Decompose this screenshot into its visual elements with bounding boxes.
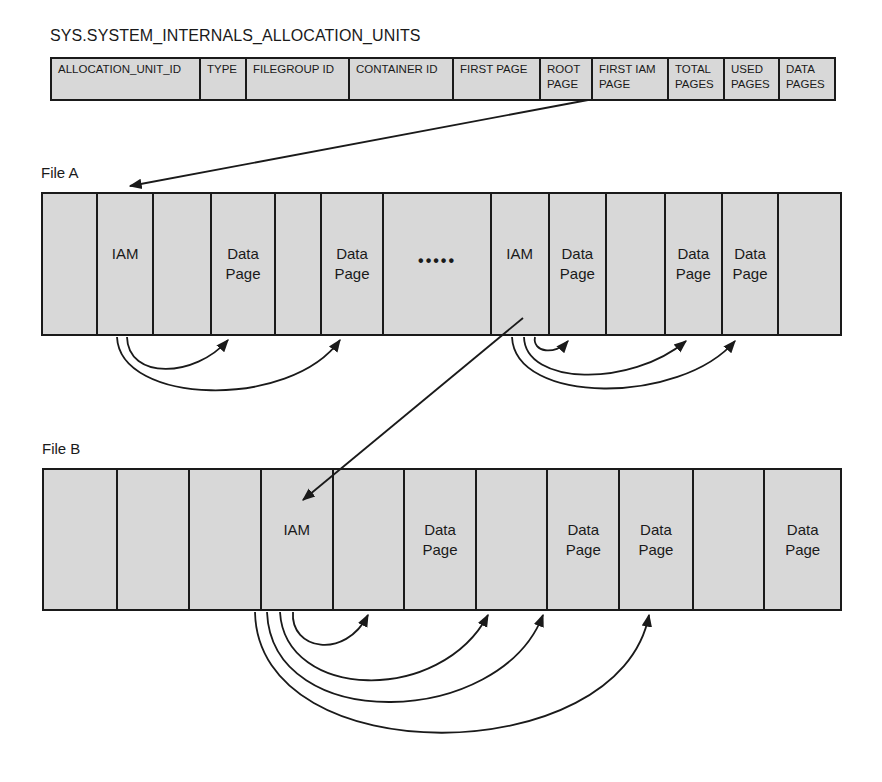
data-page-label: Data Page <box>666 244 721 284</box>
data-page-label: Data Page <box>212 244 274 284</box>
column-first-iam-page: FIRST IAM PAGE <box>593 59 669 99</box>
column-total-pages: TOTAL PAGES <box>669 59 725 99</box>
arrows-layer <box>0 0 882 782</box>
file-b-iam-arrow-3 <box>267 612 543 702</box>
file-a-data-page: Data Page <box>723 194 780 334</box>
file-a-iam2-arrow-3 <box>512 337 735 389</box>
iam-label: IAM <box>262 520 332 540</box>
column-data-pages: DATA PAGES <box>780 59 834 99</box>
file-b-iam-arrow-4 <box>255 612 649 733</box>
allocation-units-table: ALLOCATION_UNIT_ID TYPE FILEGROUP ID CON… <box>50 57 836 101</box>
data-page-label: Data Page <box>322 244 383 284</box>
file-b-page <box>44 470 118 609</box>
data-page-label: Data Page <box>550 244 606 284</box>
file-a-data-page: Data Page <box>322 194 385 334</box>
table-title: SYS.SYSTEM_INTERNALS_ALLOCATION_UNITS <box>50 27 421 45</box>
file-a-ellipsis-page: ••••• <box>384 194 491 334</box>
file-a-data-page: Data Page <box>212 194 276 334</box>
file-b-page <box>334 470 406 609</box>
file-b-iam-arrow-2 <box>280 612 488 680</box>
file-a-data-page: Data Page <box>550 194 608 334</box>
file-a-page <box>276 194 322 334</box>
file-b-data-page: Data Page <box>405 470 477 609</box>
file-b-iam-page: IAM <box>262 470 334 609</box>
file-a-iam1-arrow-1 <box>127 337 228 369</box>
file-a-iam-page: IAM <box>98 194 155 334</box>
file-a-iam2-arrow-2 <box>524 337 686 375</box>
file-a-iam2-arrow-1 <box>535 337 568 350</box>
file-b-data-page: Data Page <box>548 470 620 609</box>
data-page-label: Data Page <box>620 520 692 560</box>
column-used-pages: USED PAGES <box>725 59 780 99</box>
file-a-strip: IAM Data Page Data Page ••••• IAM Data P… <box>41 192 842 336</box>
file-b-data-page: Data Page <box>765 470 840 609</box>
column-filegroup-id: FILEGROUP ID <box>247 59 350 99</box>
file-a-data-page: Data Page <box>666 194 723 334</box>
file-b-page <box>190 470 262 609</box>
file-a-page <box>154 194 212 334</box>
iam-label: IAM <box>98 244 153 264</box>
file-b-label: File B <box>42 440 80 457</box>
file-a-label: File A <box>41 164 79 181</box>
first-iam-pointer-arrow <box>130 100 588 186</box>
file-a-iam1-arrow-2 <box>117 337 340 390</box>
column-root-page: ROOT PAGE <box>541 59 593 99</box>
file-b-data-page: Data Page <box>620 470 694 609</box>
file-b-iam-arrow-1 <box>293 612 368 645</box>
ellipsis-icon: ••••• <box>384 252 489 270</box>
column-type: TYPE <box>201 59 247 99</box>
file-a-page <box>779 194 840 334</box>
file-a-page <box>43 194 98 334</box>
data-page-label: Data Page <box>723 244 778 284</box>
file-a-iam-page: IAM <box>492 194 550 334</box>
file-b-page <box>477 470 549 609</box>
column-container-id: CONTAINER ID <box>350 59 454 99</box>
data-page-label: Data Page <box>405 520 475 560</box>
column-allocation-unit-id: ALLOCATION_UNIT_ID <box>52 59 201 99</box>
column-first-page: FIRST PAGE <box>454 59 541 99</box>
file-a-page <box>607 194 666 334</box>
file-b-strip: IAM Data Page Data Page Data Page Data P… <box>42 468 842 611</box>
file-b-page <box>694 470 766 609</box>
data-page-label: Data Page <box>548 520 618 560</box>
iam-label: IAM <box>492 244 548 264</box>
file-b-page <box>118 470 191 609</box>
data-page-label: Data Page <box>765 520 840 560</box>
